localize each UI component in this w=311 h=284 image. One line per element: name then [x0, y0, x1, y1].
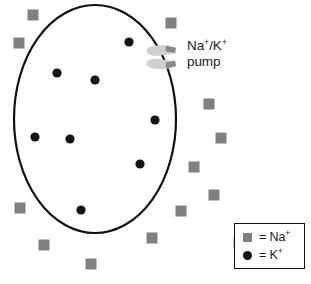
- legend-potassium-equals: =: [259, 248, 266, 262]
- pump-label-k-charge: +: [222, 37, 227, 47]
- pump-label-line-1: Na+/K+: [187, 38, 227, 54]
- potassium-ion-marker: [150, 115, 159, 124]
- sodium-ion-marker: [15, 203, 26, 214]
- legend-potassium-charge: +: [278, 246, 283, 256]
- legend-potassium-symbol: K: [270, 248, 278, 262]
- potassium-ion-marker: [30, 132, 39, 141]
- potassium-ion-marker: [135, 159, 144, 168]
- sodium-ion-marker: [189, 162, 200, 173]
- sodium-ion-marker: [209, 190, 220, 201]
- potassium-ion-marker: [65, 134, 74, 143]
- legend-row-sodium: = Na+: [243, 229, 290, 245]
- pump-label-slash-k: /K: [209, 38, 222, 53]
- sodium-ion-marker: [166, 18, 177, 29]
- potassium-ion-marker: [52, 68, 61, 77]
- sodium-ion-marker: [147, 233, 158, 244]
- potassium-ion-marker: [124, 37, 133, 46]
- pump-label-line-2: pump: [187, 54, 227, 70]
- sodium-ion-marker: [14, 38, 25, 49]
- sodium-ion-marker: [176, 206, 187, 217]
- legend-potassium-circle-icon: [243, 251, 252, 260]
- pump-label: Na+/K+ pump: [187, 38, 227, 69]
- sodium-ion-marker: [86, 259, 97, 270]
- legend-sodium-label: = Na+: [259, 230, 290, 244]
- sodium-ion-marker: [28, 10, 39, 21]
- legend-sodium-symbol: Na: [270, 230, 286, 244]
- pump-label-na: Na: [187, 38, 204, 53]
- potassium-ion-marker: [90, 75, 99, 84]
- legend-sodium-square-icon: [243, 233, 252, 242]
- potassium-ion-marker: [76, 205, 85, 214]
- sodium-ion-marker: [39, 240, 50, 251]
- legend-row-potassium: = K+: [243, 247, 283, 263]
- sodium-ion-marker: [216, 133, 227, 144]
- legend-sodium-equals: =: [259, 230, 266, 244]
- diagram-canvas: Na+/K+ pump = Na+ = K+: [0, 0, 311, 284]
- sodium-ion-marker: [204, 99, 215, 110]
- ion-legend: = Na+ = K+: [234, 223, 305, 269]
- legend-potassium-label: = K+: [259, 248, 283, 262]
- legend-sodium-charge: +: [285, 228, 290, 238]
